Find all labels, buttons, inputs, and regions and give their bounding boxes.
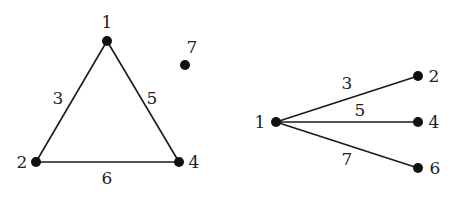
- diagram-canvas: 35612473571246: [0, 0, 453, 201]
- node-2: [413, 71, 423, 81]
- node-6: [413, 163, 423, 173]
- node-label: 7: [187, 37, 198, 57]
- edge-weight-label: 5: [355, 100, 366, 120]
- node-4: [413, 117, 423, 127]
- node-label: 2: [17, 152, 28, 172]
- node-1: [271, 117, 281, 127]
- edge-weight-label: 3: [53, 88, 64, 108]
- edge-1-2: [36, 41, 107, 162]
- node-label: 1: [255, 112, 266, 132]
- edge-weight-label: 3: [342, 73, 353, 93]
- node-7: [180, 60, 190, 70]
- edge-1-4: [107, 41, 179, 162]
- node-label: 6: [430, 158, 441, 178]
- edge-weight-label: 5: [147, 88, 158, 108]
- star-graph: 3571246: [255, 66, 441, 178]
- node-4: [174, 157, 184, 167]
- edge-weight-label: 6: [102, 168, 113, 188]
- node-2: [31, 157, 41, 167]
- node-label: 4: [429, 112, 440, 132]
- node-label: 1: [102, 12, 113, 32]
- edge-weight-label: 7: [342, 149, 353, 169]
- node-label: 2: [429, 66, 440, 86]
- node-label: 4: [189, 152, 200, 172]
- node-1: [102, 36, 112, 46]
- triangle-graph: 3561247: [17, 12, 200, 188]
